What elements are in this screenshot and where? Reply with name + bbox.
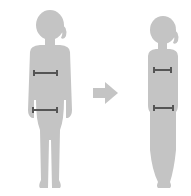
before-head (36, 10, 64, 40)
after-figure (148, 16, 178, 188)
before-body (28, 45, 72, 188)
arrow-right-icon (93, 82, 118, 104)
before-after-illustration (0, 0, 191, 196)
before-figure (28, 10, 72, 188)
after-neck (158, 41, 167, 50)
illustration-svg (0, 0, 191, 196)
before-neck (45, 37, 55, 46)
